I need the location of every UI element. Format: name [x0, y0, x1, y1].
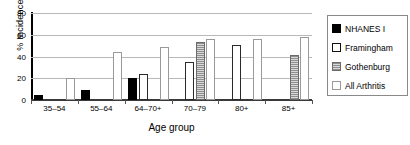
x-tick-label: 80+: [235, 104, 249, 113]
legend-item-label: NHANES I: [345, 24, 385, 34]
legend-item-nhanes: NHANES I: [332, 19, 407, 38]
legend-swatch-icon: [332, 24, 341, 33]
legend-item-label: All Arthritis: [345, 81, 385, 91]
y-tick-label: 80: [17, 9, 26, 18]
legend-item-framingham: Framingham: [332, 38, 407, 57]
chart-legend: NHANES IFraminghamGothenburgAll Arthriti…: [327, 15, 408, 96]
y-tick-label: 20: [17, 74, 26, 83]
legend-item-allarthritis: All Arthritis: [332, 76, 407, 95]
y-axis-ticks: 020406080: [6, 0, 26, 145]
legend-swatch-icon: [332, 81, 341, 90]
legend-item-label: Framingham: [345, 43, 393, 53]
x-tick-label: 55–64: [90, 104, 112, 113]
x-tick-label: 85+: [282, 104, 296, 113]
legend-swatch-icon: [332, 62, 341, 71]
x-tick-label: 70–79: [184, 104, 206, 113]
chart-figure: % Incidence 020406080 35–5455–6464–70+70…: [0, 0, 410, 145]
y-tick-label: 60: [17, 30, 26, 39]
legend-item-gothenburg: Gothenburg: [332, 57, 407, 76]
legend-item-label: Gothenburg: [345, 62, 390, 72]
y-tick-label: 0: [22, 96, 26, 105]
y-tick-label: 40: [17, 52, 26, 61]
x-axis-title: Age group: [31, 122, 312, 133]
x-tick-label: 64–70+: [135, 104, 162, 113]
x-tick-mark: [312, 100, 313, 104]
x-tick-label: 35–54: [43, 104, 65, 113]
legend-swatch-icon: [332, 43, 341, 52]
